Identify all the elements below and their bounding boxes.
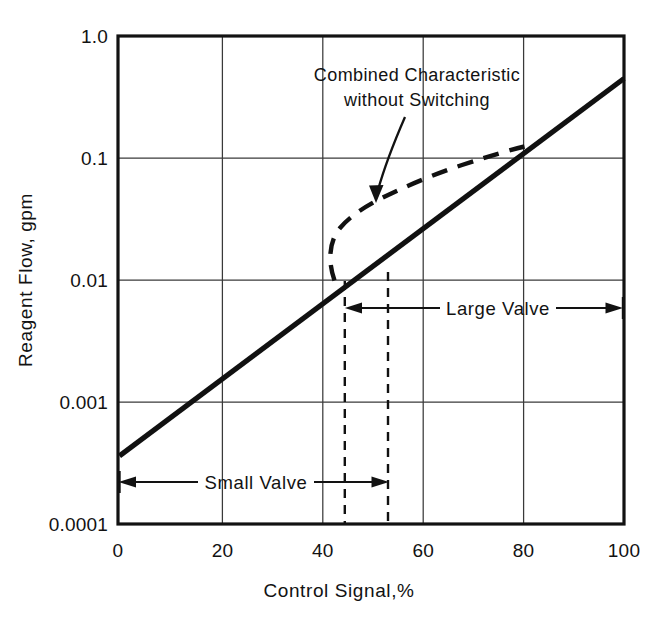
y-axis-title: Reagent Flow, gpm — [15, 193, 36, 367]
y-tick-label-3: 0.01 — [70, 270, 108, 291]
large-valve-label: Large Valve — [446, 298, 550, 319]
x-tick-label-1: 0 — [113, 540, 124, 561]
chart-figure: 1.0 0.1 0.01 0.001 0.0001 0 20 40 60 80 … — [0, 0, 658, 626]
small-valve-label: Small Valve — [205, 472, 308, 493]
y-tick-label-2: 0.1 — [81, 148, 108, 169]
x-axis-tick-labels: 0 20 40 60 80 100 — [113, 540, 641, 561]
y-axis-tick-labels: 1.0 0.1 0.01 0.001 0.0001 — [49, 26, 108, 535]
combined-characteristic-arrowhead — [369, 185, 384, 203]
series-dashed-curve — [330, 147, 524, 281]
y-tick-label-4: 0.001 — [59, 392, 108, 413]
combined-characteristic-leader-line — [378, 117, 405, 190]
small-valve-span-annotation: Small Valve — [119, 471, 390, 493]
y-tick-label-1: 1.0 — [81, 26, 108, 47]
small-valve-right-arrowhead — [372, 477, 390, 488]
combined-characteristic-label-line2: without Switching — [343, 90, 490, 110]
chart-canvas: 1.0 0.1 0.01 0.001 0.0001 0 20 40 60 80 … — [0, 0, 658, 626]
x-tick-label-2: 20 — [212, 540, 234, 561]
large-valve-right-arrowhead — [606, 303, 624, 314]
x-tick-label-6: 100 — [608, 540, 640, 561]
x-axis-title: Control Signal,% — [263, 580, 414, 601]
large-valve-span-annotation: Large Valve — [345, 297, 623, 319]
x-tick-label-5: 80 — [513, 540, 535, 561]
combined-characteristic-label-line1: Combined Characteristic — [314, 65, 520, 85]
x-tick-label-4: 60 — [412, 540, 434, 561]
series-solid-line — [120, 79, 625, 456]
y-tick-label-5: 0.0001 — [49, 514, 108, 535]
x-tick-label-3: 40 — [312, 540, 334, 561]
